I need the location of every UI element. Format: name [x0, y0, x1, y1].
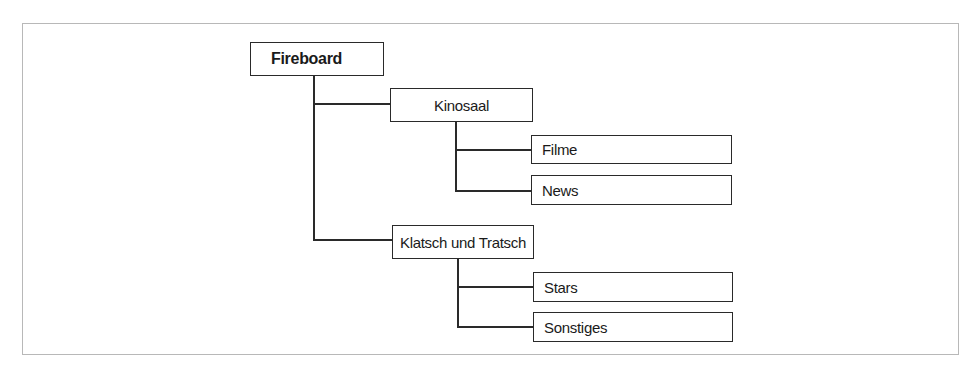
node-stars: Stars [533, 272, 733, 302]
node-sonstiges: Sonstiges [533, 312, 733, 342]
node-klatsch-und-tratsch: Klatsch und Tratsch [392, 225, 534, 259]
connector-kinosaal-vertical [455, 121, 457, 191]
node-label: Stars [544, 279, 578, 296]
connector-kinosaal-to-filme [455, 149, 532, 151]
node-news: News [531, 175, 732, 205]
node-kinosaal: Kinosaal [390, 88, 533, 122]
node-fireboard: Fireboard [250, 42, 384, 76]
node-label: Klatsch und Tratsch [400, 234, 526, 251]
node-label: Kinosaal [434, 97, 489, 114]
connector-root-vertical [313, 75, 315, 240]
node-filme: Filme [531, 135, 732, 164]
node-label: Filme [542, 141, 577, 158]
connector-root-to-klatsch [313, 239, 393, 241]
connector-root-to-kinosaal [313, 103, 391, 105]
node-label: Sonstiges [544, 319, 607, 336]
node-label: News [542, 182, 578, 199]
diagram-frame [22, 23, 959, 355]
connector-kinosaal-to-news [455, 190, 532, 192]
node-label: Fireboard [271, 50, 342, 68]
connector-klatsch-to-stars [457, 286, 534, 288]
connector-klatsch-vertical [457, 258, 459, 327]
connector-klatsch-to-sonstiges [457, 326, 534, 328]
